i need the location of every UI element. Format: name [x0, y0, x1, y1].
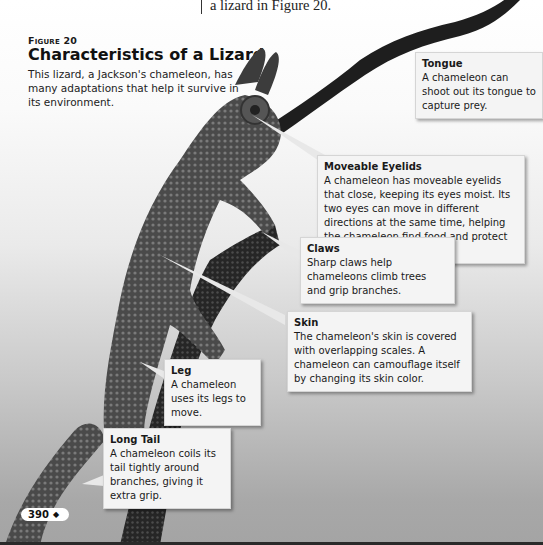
callout-skin: Skin The chameleon's skin is covered wit…	[287, 311, 472, 392]
callout-title: Moveable Eyelids	[324, 160, 518, 174]
callout-body: The chameleon's skin is covered with ove…	[294, 330, 465, 386]
callout-body: A chameleon uses its legs to move.	[171, 378, 254, 420]
callout-title: Tongue	[422, 57, 536, 71]
callout-title: Skin	[294, 316, 465, 330]
callout-body: A chameleon coils its tail tightly aroun…	[110, 447, 224, 503]
callout-title: Leg	[171, 364, 254, 378]
callout-long-tail: Long Tail A chameleon coils its tail tig…	[103, 428, 231, 509]
callout-body: Sharp claws help chameleons climb trees …	[307, 256, 448, 298]
page-number-badge: 390 ◆	[21, 508, 69, 521]
callout-leg: Leg A chameleon uses its legs to move.	[164, 359, 261, 426]
callout-claws: Claws Sharp claws help chameleons climb …	[300, 237, 455, 304]
callout-title: Claws	[307, 242, 448, 256]
page-number: 390	[28, 509, 49, 520]
callout-tongue: Tongue A chameleon can shoot out its ton…	[415, 52, 543, 119]
callout-title: Long Tail	[110, 433, 224, 447]
callout-body: A chameleon can shoot out its tongue to …	[422, 71, 536, 113]
diamond-icon: ◆	[53, 510, 59, 519]
